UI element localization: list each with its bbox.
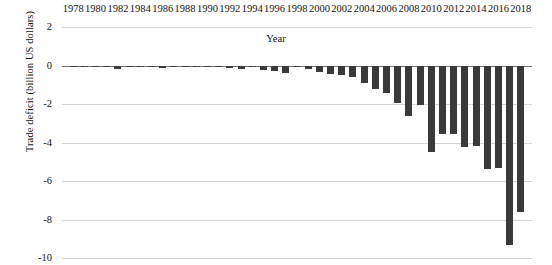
bar — [383, 66, 390, 94]
x-tick-label: 1984 — [130, 3, 151, 14]
bar — [182, 66, 189, 67]
bar — [137, 66, 144, 67]
bar — [170, 66, 177, 68]
bar — [260, 66, 267, 70]
y-tick-label: -8 — [43, 215, 52, 226]
y-tick-label: 0 — [47, 61, 52, 72]
x-tick-label: 2008 — [398, 3, 419, 14]
bar — [81, 66, 88, 67]
bar — [126, 66, 133, 67]
bar — [450, 66, 457, 134]
x-tick-label: 1982 — [107, 3, 128, 14]
bar — [338, 66, 345, 76]
x-tick-label: 2014 — [466, 3, 487, 14]
bar — [316, 66, 323, 72]
x-tick-label: 2002 — [331, 3, 352, 14]
x-tick-label: 2016 — [488, 3, 509, 14]
x-axis-tick-labels: 1978198019821984198619881990199219941996… — [0, 0, 552, 20]
bar — [70, 66, 77, 67]
x-tick-label: 2000 — [309, 3, 330, 14]
bar — [517, 66, 524, 212]
bar — [204, 66, 211, 67]
x-tick-label: 1978 — [63, 3, 84, 14]
y-tick-label: -6 — [43, 176, 52, 187]
x-tick-label: 1990 — [197, 3, 218, 14]
bar — [193, 66, 200, 67]
bar — [428, 66, 435, 153]
x-tick-label: 2012 — [443, 3, 464, 14]
bar — [249, 66, 256, 68]
bar — [226, 66, 233, 68]
bar — [282, 66, 289, 73]
bar — [361, 66, 368, 83]
gridline — [62, 258, 532, 259]
bar — [473, 66, 480, 147]
bar — [349, 66, 356, 78]
x-tick-label: 1992 — [219, 3, 240, 14]
plot-area — [62, 27, 532, 258]
bar — [148, 66, 155, 67]
x-tick-label: 1994 — [242, 3, 263, 14]
bar — [461, 66, 468, 148]
gridline — [62, 220, 532, 221]
x-tick-label: 1998 — [287, 3, 308, 14]
bar-chart: Trade deficit (billion US dollars) 20-2-… — [0, 0, 552, 265]
bar — [327, 66, 334, 74]
bar — [405, 66, 412, 116]
gridline — [62, 181, 532, 182]
bar — [394, 66, 401, 104]
y-tick-label: -4 — [43, 138, 52, 149]
y-tick-label: -2 — [43, 99, 52, 110]
bar — [439, 66, 446, 134]
bar — [305, 66, 312, 70]
bar — [215, 66, 222, 67]
bar — [238, 66, 245, 69]
bar — [506, 66, 513, 246]
x-tick-label: 1996 — [264, 3, 285, 14]
x-tick-label: 2004 — [354, 3, 375, 14]
bar — [417, 66, 424, 105]
x-tick-label: 2010 — [421, 3, 442, 14]
y-tick-label: -10 — [38, 253, 52, 264]
gridline — [62, 27, 532, 28]
bar — [495, 66, 502, 168]
bar — [271, 66, 278, 72]
bar — [114, 66, 121, 69]
bar — [103, 66, 110, 67]
bar — [92, 66, 99, 67]
bar — [372, 66, 379, 89]
bar — [484, 66, 491, 170]
bar — [294, 66, 301, 68]
bar — [159, 66, 166, 68]
x-tick-label: 1980 — [85, 3, 106, 14]
x-tick-label: 1986 — [152, 3, 173, 14]
y-tick-label: 2 — [47, 22, 52, 33]
x-tick-label: 1988 — [175, 3, 196, 14]
x-tick-label: 2006 — [376, 3, 397, 14]
x-tick-label: 2018 — [510, 3, 531, 14]
